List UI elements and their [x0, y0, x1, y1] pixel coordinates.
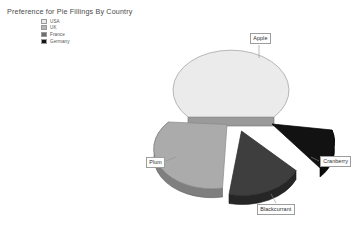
slice-label-blackcurrant: Blackcurrant: [257, 204, 295, 215]
slice-label-apple: Apple: [250, 33, 271, 44]
pie-plot-area: Apple Cranberry Blackcurrant Plum: [0, 0, 363, 226]
slice-apple: [173, 50, 289, 117]
slice-label-plum: Plum: [146, 157, 165, 168]
slice-label-cranberry: Cranberry: [320, 156, 351, 167]
pie-chart-figure: Preference for Pie Fillings By Country U…: [0, 0, 363, 226]
pie-svg: [0, 0, 363, 226]
